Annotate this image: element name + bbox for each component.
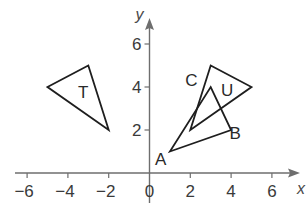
x-tick-label: 0 [145,182,154,201]
triangle-label-u: U [221,81,233,100]
coordinate-plane: −6−4−20246246xy TUABC [0,0,308,203]
vertex-label-a: A [155,150,167,169]
y-tick-label: 2 [132,121,141,140]
axes: −6−4−20246246xy [14,6,306,203]
triangle-label-t: T [78,83,88,102]
x-tick-label: 2 [186,182,195,201]
x-tick-label: 4 [226,182,235,201]
x-tick-label: −4 [55,182,74,201]
y-axis-label: y [135,6,145,23]
x-tick-label: −2 [96,182,115,201]
x-tick-label: −6 [14,182,33,201]
coordinate-diagram: −6−4−20246246xy TUABC [0,0,308,203]
y-tick-label: 4 [132,78,141,97]
vertex-label-c: C [185,71,197,90]
x-tick-label: 6 [267,182,276,201]
vertex-label-b: B [230,124,241,143]
x-axis-label: x [296,180,306,197]
labels: TUABC [78,71,241,170]
y-tick-label: 6 [132,35,141,54]
